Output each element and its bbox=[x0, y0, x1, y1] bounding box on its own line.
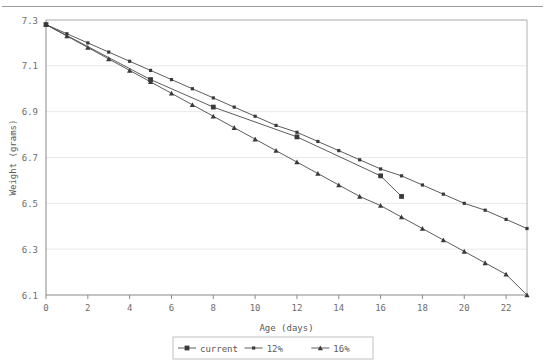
data-point-marker bbox=[273, 148, 278, 153]
data-point-marker bbox=[86, 41, 89, 44]
data-point-marker bbox=[441, 237, 446, 242]
x-tick-label: 12 bbox=[292, 303, 303, 313]
x-tick-label: 22 bbox=[501, 303, 512, 313]
y-tick-label: 6.9 bbox=[22, 107, 38, 117]
chart-canvas: 6.16.36.56.76.97.17.30246810121416182022… bbox=[0, 0, 545, 364]
x-tick-label: 20 bbox=[459, 303, 470, 313]
data-point-marker bbox=[420, 226, 425, 231]
data-point-marker bbox=[503, 272, 508, 277]
data-point-marker bbox=[484, 209, 487, 212]
series-line bbox=[46, 25, 402, 197]
data-point-marker bbox=[211, 105, 216, 110]
legend-label: 12% bbox=[267, 344, 284, 354]
y-tick-label: 6.1 bbox=[22, 291, 38, 301]
data-point-marker bbox=[148, 77, 153, 82]
data-point-marker bbox=[254, 115, 257, 118]
series-line bbox=[46, 25, 527, 229]
data-point-marker bbox=[294, 159, 299, 164]
data-point-marker bbox=[483, 260, 488, 265]
data-point-marker bbox=[399, 214, 404, 219]
y-tick-label: 6.5 bbox=[22, 199, 38, 209]
data-point-marker bbox=[233, 105, 236, 108]
x-tick-label: 4 bbox=[127, 303, 132, 313]
data-point-marker bbox=[400, 174, 403, 177]
data-point-marker bbox=[378, 173, 383, 178]
data-point-marker bbox=[253, 137, 258, 142]
x-tick-label: 0 bbox=[43, 303, 48, 313]
y-axis-title: Weight (grams) bbox=[8, 120, 18, 196]
x-tick-label: 18 bbox=[417, 303, 428, 313]
y-tick-label: 7.1 bbox=[22, 61, 38, 71]
data-point-marker bbox=[357, 194, 362, 199]
y-tick-label: 7.3 bbox=[22, 16, 38, 26]
data-point-marker bbox=[379, 167, 382, 170]
data-point-marker bbox=[337, 149, 340, 152]
data-point-marker bbox=[252, 346, 255, 349]
data-point-marker bbox=[169, 91, 174, 96]
data-point-marker bbox=[504, 218, 507, 221]
data-point-marker bbox=[442, 193, 445, 196]
data-point-marker bbox=[170, 78, 173, 81]
series-line bbox=[46, 25, 527, 295]
data-point-marker bbox=[295, 131, 298, 134]
y-tick-label: 6.3 bbox=[22, 245, 38, 255]
x-tick-label: 2 bbox=[85, 303, 90, 313]
legend-label: 16% bbox=[333, 344, 350, 354]
legend-label: current bbox=[200, 344, 238, 354]
data-point-marker bbox=[463, 202, 466, 205]
x-tick-label: 14 bbox=[333, 303, 344, 313]
data-point-marker bbox=[315, 171, 320, 176]
x-tick-label: 10 bbox=[250, 303, 261, 313]
data-point-marker bbox=[316, 140, 319, 143]
data-point-marker bbox=[149, 69, 152, 72]
data-point-marker bbox=[525, 227, 528, 230]
data-point-marker bbox=[128, 60, 131, 63]
data-point-marker bbox=[212, 96, 215, 99]
data-point-marker bbox=[191, 87, 194, 90]
data-point-marker bbox=[190, 102, 195, 107]
data-point-marker bbox=[421, 183, 424, 186]
x-axis-title: Age (days) bbox=[259, 323, 313, 333]
data-point-marker bbox=[399, 194, 404, 199]
data-point-marker bbox=[274, 124, 277, 127]
x-tick-label: 8 bbox=[211, 303, 216, 313]
weight-vs-age-line-chart: 6.16.36.56.76.97.17.30246810121416182022… bbox=[0, 0, 545, 364]
x-tick-label: 16 bbox=[375, 303, 386, 313]
data-point-marker bbox=[358, 158, 361, 161]
y-tick-label: 6.7 bbox=[22, 153, 38, 163]
data-point-marker bbox=[211, 114, 216, 119]
series-current bbox=[44, 22, 404, 199]
series-16- bbox=[43, 22, 529, 297]
data-point-marker bbox=[107, 50, 110, 53]
data-point-marker bbox=[336, 182, 341, 187]
series-12- bbox=[44, 23, 528, 230]
data-point-marker bbox=[44, 22, 49, 27]
data-point-marker bbox=[185, 346, 190, 351]
data-point-marker bbox=[295, 134, 300, 139]
data-point-marker bbox=[232, 125, 237, 130]
x-tick-label: 6 bbox=[169, 303, 174, 313]
